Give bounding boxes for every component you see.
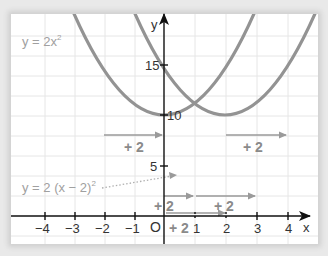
x-tick-label: −1 <box>125 221 140 236</box>
parabola-graph: −4 −3 −2 −1 1 2 3 4 5 10 15 O x y y = 2x… <box>0 0 328 256</box>
curve-y-2-x-minus-2-sq <box>133 8 318 115</box>
x-tick-label: 4 <box>285 221 292 236</box>
shift-label: + 2 <box>154 198 174 214</box>
x-tick-label: 1 <box>193 221 200 236</box>
x-tick-label: −2 <box>95 221 110 236</box>
y-tick-label: 5 <box>150 159 157 174</box>
pointer-arrowhead-icon <box>169 172 177 179</box>
x-tick-label: −4 <box>35 221 50 236</box>
x-tick-label: 3 <box>254 221 261 236</box>
shift-label: + 2 <box>124 139 144 155</box>
y-axis-label: y <box>151 17 158 32</box>
x-axis-label: x <box>303 220 310 235</box>
shift-label: + 2 <box>214 198 234 214</box>
x-tick-label: 2 <box>223 221 230 236</box>
label-pointer <box>102 176 172 188</box>
y-tick-label: 10 <box>167 108 181 123</box>
shift-label: + 2 <box>169 220 189 236</box>
y-tick-label: 15 <box>145 58 159 73</box>
origin-label: O <box>150 219 161 235</box>
curve2-label: y = 2 (x − 2)2 <box>22 179 96 195</box>
x-tick-label: −3 <box>65 221 80 236</box>
shift-label: + 2 <box>243 139 263 155</box>
curve1-label: y = 2x2 <box>22 33 62 49</box>
